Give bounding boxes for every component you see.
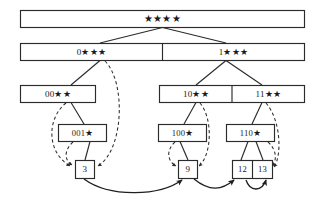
node-n11-label: 11★★ xyxy=(256,89,282,99)
node-n00-label: 00★★ xyxy=(45,89,71,99)
node-n10[interactable]: 10★★ xyxy=(160,86,233,103)
edge-n11-to-n110 xyxy=(252,103,262,125)
edge-n0-to-n00 xyxy=(71,61,100,86)
chain-leaf12-to-leaf13 xyxy=(246,180,266,189)
edge-n110-to-leaf13 xyxy=(256,142,263,161)
edge-n1-to-n11 xyxy=(226,61,262,86)
trie-diagram: ★★★★ 0★★★ 1★★★ 00★★ 10★ xyxy=(0,0,323,208)
dashed-n001-to-leaf3 xyxy=(66,142,73,165)
trie-diagram-canvas: ★★★★ 0★★★ 1★★★ 00★★ 10★ xyxy=(0,0,323,208)
node-n001[interactable]: 001★ xyxy=(59,125,107,142)
edge-n00-to-n001 xyxy=(71,103,84,125)
node-leaf9[interactable]: 9 xyxy=(179,161,198,179)
edge-root-to-n0 xyxy=(100,28,163,44)
node-n100-label: 100★ xyxy=(172,128,194,138)
node-group-level-3: 001★ 100★ 110★ xyxy=(59,125,275,142)
node-n11[interactable]: 11★★ xyxy=(232,86,305,103)
edge-root-to-n1 xyxy=(163,28,227,44)
edge-n1-to-n10 xyxy=(196,61,226,86)
node-n100[interactable]: 100★ xyxy=(159,125,207,142)
edge-n110-to-leaf12 xyxy=(241,142,248,161)
node-n00[interactable]: 00★★ xyxy=(21,86,96,103)
node-group-level-2: 00★★ 10★★ 11★★ xyxy=(21,86,305,103)
node-n0-label: 0★★★ xyxy=(77,47,107,57)
dashed-n0-to-leaf3 xyxy=(98,61,119,166)
edge-n10-to-n100 xyxy=(184,103,196,125)
node-n001-label: 001★ xyxy=(72,128,94,138)
node-leaf13-label: 13 xyxy=(258,164,267,174)
node-n10-label: 10★★ xyxy=(183,89,209,99)
node-group-leaf-level: 3 9 12 13 xyxy=(76,161,273,179)
node-root-label: ★★★★ xyxy=(144,14,182,24)
node-n1-label: 1★★★ xyxy=(219,47,249,57)
node-n1[interactable]: 1★★★ xyxy=(163,44,305,61)
chain-leaf3-to-leaf9 xyxy=(84,179,182,193)
leaf-chain-group xyxy=(84,179,266,193)
node-leaf3[interactable]: 3 xyxy=(76,161,95,179)
node-leaf12-label: 12 xyxy=(238,164,247,174)
node-n110-label: 110★ xyxy=(240,128,261,138)
node-leaf9-label: 9 xyxy=(186,164,191,174)
node-group-level-1: 0★★★ 1★★★ xyxy=(21,44,305,61)
node-leaf13[interactable]: 13 xyxy=(253,161,273,179)
node-leaf3-label: 3 xyxy=(83,164,88,174)
node-n0[interactable]: 0★★★ xyxy=(21,44,163,61)
node-root[interactable]: ★★★★ xyxy=(21,11,305,28)
edge-n001-to-leaf3 xyxy=(85,142,90,161)
edge-n100-to-leaf9 xyxy=(180,142,188,161)
node-n110[interactable]: 110★ xyxy=(227,125,275,142)
node-leaf12[interactable]: 12 xyxy=(233,161,253,179)
dashed-n100-to-leaf9 xyxy=(169,142,176,166)
chain-leaf9-to-leaf12 xyxy=(194,179,234,188)
